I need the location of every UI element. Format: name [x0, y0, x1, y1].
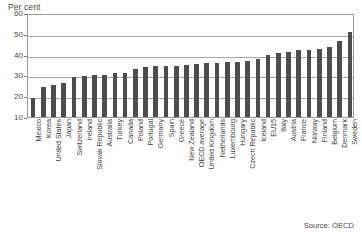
bar[interactable]: [184, 65, 189, 117]
bar[interactable]: [317, 49, 322, 117]
x-axis-labels: MexicoKoreaUnited StatesJapanSwitzerland…: [27, 119, 354, 201]
x-tick-label: Slovak Republic: [96, 119, 103, 170]
y-tick-label: 20: [14, 93, 23, 101]
bar[interactable]: [256, 59, 261, 117]
bar[interactable]: [102, 75, 107, 117]
bar[interactable]: [348, 32, 353, 117]
x-tick-label: Germany: [157, 119, 164, 148]
bar[interactable]: [286, 52, 291, 117]
y-tick-label: 60: [14, 10, 23, 18]
x-tick-label: Italy: [280, 119, 287, 132]
plot-wrapper: 102030405060: [27, 14, 354, 118]
bar[interactable]: [113, 73, 118, 117]
x-tick-label: Portugal: [147, 119, 154, 145]
bar[interactable]: [153, 66, 158, 117]
source-note: Source: OECD: [304, 221, 354, 230]
x-tick-label: Spain: [168, 119, 175, 137]
x-tick-label: Australia: [106, 119, 113, 147]
x-tick-label: United Kingdom: [208, 119, 215, 169]
plot-area: [27, 14, 354, 118]
y-tick-mark: [24, 76, 27, 77]
bar[interactable]: [133, 69, 138, 117]
y-tick-label: 10: [14, 114, 23, 122]
x-tick-label: OECD average: [198, 119, 205, 167]
bar[interactable]: [143, 67, 148, 117]
x-tick-label: Turkey: [116, 119, 123, 140]
bar[interactable]: [337, 41, 342, 117]
x-tick-label: United States: [55, 119, 62, 162]
bar[interactable]: [92, 75, 97, 117]
bar[interactable]: [123, 73, 128, 117]
x-tick-label: Luxembourg: [229, 119, 236, 158]
y-tick-label: 50: [14, 31, 23, 39]
bar[interactable]: [41, 87, 46, 117]
bar[interactable]: [245, 61, 250, 117]
x-tick-label: Canada: [127, 119, 134, 144]
bar[interactable]: [235, 62, 240, 117]
x-tick-label: Belgium: [331, 119, 338, 145]
x-tick-label: Switzerland: [76, 119, 83, 156]
bar[interactable]: [61, 83, 66, 117]
bar[interactable]: [72, 77, 77, 117]
x-tick-label: New Zealand: [188, 119, 195, 161]
x-tick-label: Korea: [45, 119, 52, 138]
bar[interactable]: [174, 66, 179, 117]
bar[interactable]: [215, 63, 220, 117]
x-tick-label: Japan: [65, 119, 72, 138]
y-tick-label: 30: [14, 72, 23, 80]
bar[interactable]: [266, 55, 271, 117]
x-tick-label: Austria: [290, 119, 297, 141]
y-tick-mark: [24, 97, 27, 98]
x-tick-label: Ireland: [86, 119, 93, 141]
bar[interactable]: [164, 66, 169, 117]
bar[interactable]: [296, 50, 301, 117]
chart-figure: Per cent 102030405060 MexicoKoreaUnited …: [0, 0, 362, 236]
bar[interactable]: [204, 63, 209, 117]
x-tick-label: Poland: [137, 119, 144, 141]
bar[interactable]: [31, 98, 36, 117]
bar[interactable]: [327, 47, 332, 117]
x-tick-label: Mexico: [35, 119, 42, 141]
y-tick-mark: [24, 56, 27, 57]
x-tick-label: France: [300, 119, 307, 141]
x-tick-label: Hungary: [239, 119, 246, 146]
x-tick-label: Czech Republic: [249, 119, 256, 169]
bar[interactable]: [51, 85, 56, 117]
bar[interactable]: [82, 76, 87, 117]
x-tick-label: Denmark: [341, 119, 348, 148]
x-tick-label: Iceland: [260, 119, 267, 142]
bar[interactable]: [276, 53, 281, 117]
bar-series: [28, 15, 353, 117]
x-tick-label: Sweden: [351, 119, 358, 145]
y-tick-mark: [24, 14, 27, 15]
bar[interactable]: [194, 64, 199, 117]
x-tick-label: Greece: [178, 119, 185, 142]
y-tick-mark: [24, 35, 27, 36]
bar[interactable]: [307, 50, 312, 117]
y-tick-label: 40: [14, 52, 23, 60]
bar[interactable]: [225, 62, 230, 117]
y-axis-title: Per cent: [8, 2, 40, 12]
x-tick-label: Finland: [321, 119, 328, 142]
x-tick-label: EU15: [270, 119, 277, 137]
x-tick-label: Netherlands: [219, 119, 226, 157]
x-tick-label: Norway: [311, 119, 318, 143]
